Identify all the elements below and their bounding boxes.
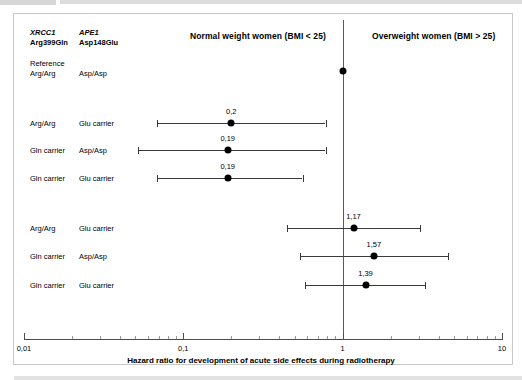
row-genotype-xrcc1: Gln carrier xyxy=(30,281,65,290)
row-genotype-xrcc1: Gln carrier xyxy=(30,174,65,183)
column-header-xrcc1: XRCC1 Arg399Gln xyxy=(30,28,68,48)
panel-title-normal-weight: Normal weight women (BMI < 25) xyxy=(190,31,326,41)
x-axis-tick-label: 10 xyxy=(498,344,506,353)
column-header-ape1-gene: APE1 xyxy=(79,28,118,38)
confidence-interval-cap xyxy=(138,147,139,154)
row-genotype-xrcc1: Gln carrier xyxy=(30,252,65,261)
row-genotype-xrcc1: Gln carrier xyxy=(30,146,65,155)
point-estimate-value-label: 1,57 xyxy=(367,240,382,249)
confidence-interval-cap xyxy=(326,147,327,154)
reference-genotype-ape1: Asp/Asp xyxy=(79,69,107,79)
point-estimate-marker xyxy=(224,175,231,182)
confidence-interval-cap xyxy=(420,225,421,232)
reference-word: Reference xyxy=(30,59,65,69)
row-genotype-ape1: Asp/Asp xyxy=(79,252,107,261)
point-estimate-marker xyxy=(224,147,231,154)
point-estimate-value-label: 1,17 xyxy=(346,212,361,221)
confidence-interval-cap xyxy=(157,120,158,127)
row-genotype-ape1: Asp/Asp xyxy=(79,146,107,155)
x-axis-title: Hazard ratio for development of acute si… xyxy=(0,356,522,365)
column-header-ape1: APE1 Asp148Glu xyxy=(79,28,118,48)
point-estimate-marker xyxy=(350,225,357,232)
forest-plot: XRCC1 Arg399Gln APE1 Asp148Glu Normal we… xyxy=(0,0,522,380)
row-genotype-ape1: Glu carrier xyxy=(79,224,114,233)
point-estimate-marker xyxy=(370,253,377,260)
confidence-interval-cap xyxy=(305,282,306,289)
column-header-xrcc1-polymorphism: Arg399Gln xyxy=(30,38,68,47)
reference-genotype-xrcc1: Arg/Arg xyxy=(30,69,55,79)
row-genotype-ape1: Glu carrier xyxy=(79,281,114,290)
x-axis-tick-label: 0,1 xyxy=(178,344,188,353)
confidence-interval-line xyxy=(157,123,326,124)
point-estimate-value-label: 0,2 xyxy=(226,107,236,116)
panel-title-overweight: Overweight women (BMI > 25) xyxy=(372,31,495,41)
reference-point-marker xyxy=(339,68,346,75)
confidence-interval-line xyxy=(138,150,325,151)
column-header-ape1-polymorphism: Asp148Glu xyxy=(79,38,118,47)
confidence-interval-cap xyxy=(448,253,449,260)
x-axis-tick-label: 1 xyxy=(341,344,345,353)
confidence-interval-cap xyxy=(287,225,288,232)
confidence-interval-cap xyxy=(303,175,304,182)
point-estimate-value-label: 1,39 xyxy=(358,269,373,278)
confidence-interval-cap xyxy=(300,253,301,260)
point-estimate-marker xyxy=(362,282,369,289)
x-axis-tick-label: 0,01 xyxy=(17,344,32,353)
point-estimate-marker xyxy=(228,120,235,127)
x-axis-line xyxy=(24,339,502,340)
row-genotype-xrcc1: Arg/Arg xyxy=(30,119,55,128)
confidence-interval-cap xyxy=(425,282,426,289)
row-genotype-ape1: Glu carrier xyxy=(79,119,114,128)
row-genotype-ape1: Glu carrier xyxy=(79,174,114,183)
column-header-xrcc1-gene: XRCC1 xyxy=(30,28,68,38)
confidence-interval-cap xyxy=(326,120,327,127)
point-estimate-value-label: 0,19 xyxy=(220,162,235,171)
x-axis-tick-major xyxy=(502,333,503,340)
row-genotype-xrcc1: Arg/Arg xyxy=(30,224,55,233)
confidence-interval-cap xyxy=(157,175,158,182)
point-estimate-value-label: 0,19 xyxy=(220,134,235,143)
